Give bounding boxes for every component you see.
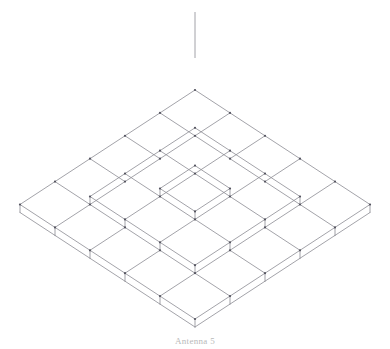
wireframe-vertex <box>229 295 231 297</box>
wireframe-vertex <box>159 158 161 160</box>
wireframe-vertex <box>229 195 231 197</box>
wireframe-vertex <box>299 195 301 197</box>
wireframe-vertex <box>299 158 301 160</box>
wireframe-vertex <box>159 295 161 297</box>
wireframe-vertex <box>334 226 336 228</box>
wireframe-vertex <box>194 165 196 167</box>
wireframe-vertex <box>124 173 126 175</box>
wireframe-vertex <box>194 264 196 266</box>
wireframe-vertex <box>124 272 126 274</box>
wireframe-vertex <box>194 127 196 129</box>
wireframe-vertex <box>229 187 231 189</box>
wireframe-vertex <box>194 210 196 212</box>
wireframe-vertex <box>19 203 21 205</box>
wireframe-vertex <box>229 158 231 160</box>
wireframe-vertex <box>89 195 91 197</box>
isometric-pyramid-diagram <box>0 0 390 349</box>
wireframe-vertex <box>124 218 126 220</box>
wireframe-vertex <box>159 187 161 189</box>
wireframe-vertex <box>229 241 231 243</box>
wireframe-vertex <box>229 249 231 251</box>
wireframe-vertex <box>159 195 161 197</box>
wireframe-vertex <box>369 203 371 205</box>
wireframe-vertex <box>264 272 266 274</box>
wireframe-vertex <box>299 249 301 251</box>
figure-caption: Antenna 5 <box>0 336 390 347</box>
figure-root: Antenna 5 <box>0 0 390 349</box>
wireframe-vertex <box>334 181 336 183</box>
wireframe-vertex <box>264 173 266 175</box>
wireframe-vertex <box>194 318 196 320</box>
wireframe-vertex <box>124 181 126 183</box>
wireframe-vertex <box>264 218 266 220</box>
wireframe-vertex <box>159 249 161 251</box>
wireframe-vertex <box>194 89 196 91</box>
wireframe-vertex <box>264 181 266 183</box>
wireframe-vertex <box>299 203 301 205</box>
wireframe-vertex <box>54 226 56 228</box>
wireframe-vertex <box>264 226 266 228</box>
wireframe-vertex <box>159 150 161 152</box>
wireframe-vertex <box>194 173 196 175</box>
wireframe-vertex <box>264 135 266 137</box>
wireframe-vertex <box>89 203 91 205</box>
wireframe-vertex <box>54 181 56 183</box>
wireframe-vertex <box>194 272 196 274</box>
wireframe-vertex <box>194 218 196 220</box>
wireframe-vertex <box>159 112 161 114</box>
wireframe-vertex <box>124 226 126 228</box>
wireframe-vertex <box>89 158 91 160</box>
wireframe-vertex <box>194 135 196 137</box>
wireframe-vertex <box>229 112 231 114</box>
wireframe-vertex <box>124 135 126 137</box>
wireframe-vertex <box>229 150 231 152</box>
wireframe-vertex <box>159 241 161 243</box>
wireframe-vertex <box>89 249 91 251</box>
